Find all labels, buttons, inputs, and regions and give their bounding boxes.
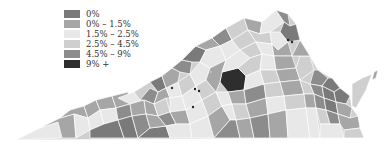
legend-swatch — [64, 20, 80, 28]
legend-item: 4.5% – 9% — [64, 49, 139, 59]
county[interactable] — [250, 114, 270, 138]
legend-item: 0% – 1.5% — [64, 19, 139, 29]
legend-swatch — [64, 10, 80, 18]
legend-swatch — [64, 50, 80, 58]
legend-label: 9% + — [86, 59, 109, 69]
city-marker — [198, 90, 200, 92]
county[interactable] — [320, 124, 344, 138]
legend-label: 4.5% – 9% — [86, 49, 131, 59]
legend-label: 0% – 1.5% — [86, 19, 131, 29]
legend-item: 1.5% – 2.5% — [64, 29, 139, 39]
city-marker — [291, 41, 293, 43]
legend-label: 0% — [86, 9, 100, 19]
legend-label: 1.5% – 2.5% — [86, 29, 139, 39]
eastern-shore[interactable] — [372, 70, 378, 80]
county[interactable] — [260, 54, 276, 70]
county[interactable] — [268, 110, 288, 138]
legend-item: 2.5% – 4.5% — [64, 39, 139, 49]
county[interactable] — [344, 128, 364, 138]
city-marker — [210, 71, 212, 73]
city-marker — [194, 88, 196, 90]
city-marker — [192, 106, 194, 108]
virginia-choropleth-map — [0, 0, 391, 153]
legend-swatch — [64, 40, 80, 48]
legend-swatch — [64, 60, 80, 68]
legend-label: 2.5% – 4.5% — [86, 39, 139, 49]
legend-item: 0% — [64, 9, 139, 19]
eastern-shore[interactable] — [352, 74, 372, 108]
city-marker — [287, 39, 289, 41]
county[interactable] — [166, 124, 192, 138]
legend-item: 9% + — [64, 59, 139, 69]
city-marker — [171, 87, 173, 89]
map-legend: 0% 0% – 1.5% 1.5% – 2.5% 2.5% – 4.5% 4.5… — [64, 9, 139, 69]
county[interactable] — [284, 94, 306, 110]
county[interactable] — [16, 122, 62, 140]
legend-swatch — [64, 30, 80, 38]
county[interactable] — [274, 56, 296, 70]
